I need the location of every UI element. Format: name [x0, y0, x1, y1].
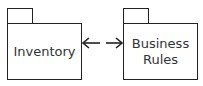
right-arrow-icon	[106, 38, 122, 48]
left-arrow-icon	[83, 38, 100, 48]
dependency-arrows	[0, 0, 203, 86]
